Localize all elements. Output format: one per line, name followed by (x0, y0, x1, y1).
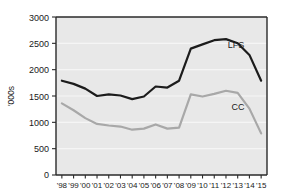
x-tick-label-03: '03 (115, 181, 126, 190)
y-tick-label-2000: 2000 (29, 65, 49, 75)
x-tick-label-01: '01 (92, 181, 103, 190)
x-tick-label-11: '11 (209, 181, 219, 190)
x-tick-label-15: '15 (256, 181, 267, 190)
y-tick-label-1000: 1000 (29, 118, 49, 128)
y-tick-label-2500: 2500 (29, 39, 49, 49)
x-tick-label-12: '12 (221, 181, 232, 190)
x-tick-label-98: '98 (57, 181, 68, 190)
line-chart-svg: 3000 2500 2000 1500 1000 500 0 '000s '98… (0, 0, 281, 196)
x-tick-label-09: '09 (186, 181, 197, 190)
x-tick-label-14: '14 (244, 181, 255, 190)
x-tick-label-13: '13 (232, 181, 243, 190)
chart-figure: 3000 2500 2000 1500 1000 500 0 '000s '98… (0, 0, 281, 196)
x-tick-label-04: '04 (127, 181, 138, 190)
x-tick-label-10: '10 (197, 181, 208, 190)
y-tick-label-0: 0 (44, 170, 49, 180)
x-tick-label-06: '06 (150, 181, 161, 190)
x-tick-label-00: '00 (80, 181, 91, 190)
cc-series-label: CC (232, 102, 245, 112)
x-tick-label-08: '08 (174, 181, 185, 190)
y-tick-label-3000: 3000 (29, 13, 49, 23)
x-tick-label-99: '99 (68, 181, 79, 190)
x-tick-labels: '98'99'00'01'02'03'04'05'06'07'08'09'10'… (57, 181, 267, 190)
x-tick-label-02: '02 (104, 181, 115, 190)
x-tick-label-07: '07 (162, 181, 173, 190)
x-tick-label-05: '05 (139, 181, 150, 190)
y-axis-title: '000s (6, 86, 16, 106)
lfs-series-label: LFS (228, 40, 245, 50)
y-tick-label-1500: 1500 (29, 92, 49, 102)
y-tick-label-500: 500 (34, 144, 49, 154)
